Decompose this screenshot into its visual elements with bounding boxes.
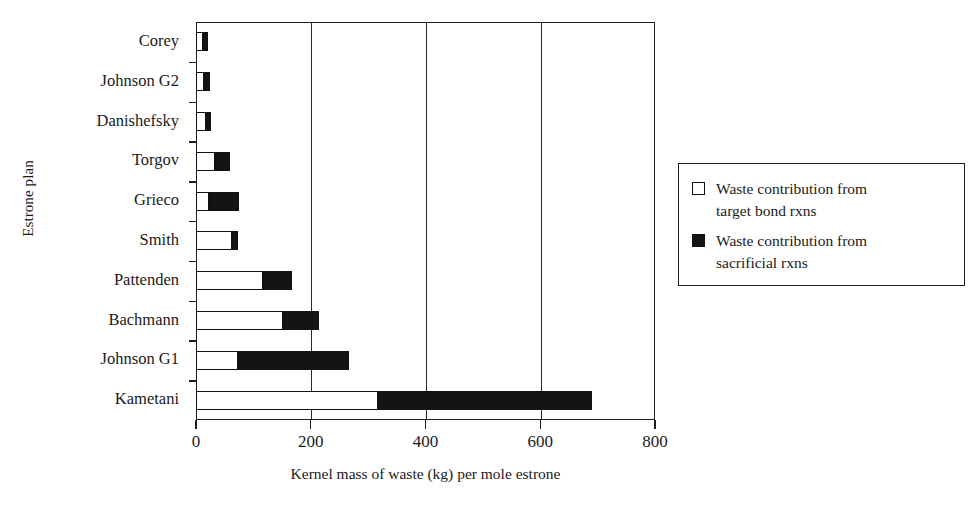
- legend-label: Waste contribution from target bond rxns: [716, 178, 867, 222]
- y-axis-label-smith: Smith: [140, 232, 179, 249]
- y-axis-tick: [189, 340, 196, 341]
- x-axis-tick-0: [195, 420, 196, 429]
- x-axis-ticks: [196, 420, 655, 430]
- y-axis-label-johnson-g1: Johnson G1: [101, 351, 179, 368]
- x-axis-tick-label-200: 200: [298, 432, 324, 452]
- y-axis-tick: [189, 380, 196, 381]
- bar-torgov: [196, 152, 230, 171]
- y-axis-tick: [189, 221, 196, 222]
- bar-pattenden: [196, 271, 292, 290]
- bar-johnson-g1: [196, 351, 349, 370]
- y-axis-tick: [189, 62, 196, 63]
- bar-corey: [196, 32, 205, 51]
- bar-chart-figure: Estrone plan CoreyJohnson G2DanishefskyT…: [0, 0, 971, 508]
- y-axis-tick: [189, 301, 196, 302]
- bar-segment-target-bond: [196, 351, 238, 370]
- bar-bachmann: [196, 311, 319, 330]
- bar-segment-sacrificial: [238, 351, 349, 370]
- bar-segment-target-bond: [196, 32, 203, 51]
- y-axis-label-kametani: Kametani: [115, 391, 179, 408]
- legend-swatch-white-icon: [692, 182, 705, 195]
- legend-item-target-bond-rxns: Waste contribution from target bond rxns: [692, 178, 867, 222]
- bar-segment-target-bond: [196, 192, 209, 211]
- legend-swatch-black-icon: [692, 234, 705, 247]
- bar-segment-sacrificial: [215, 152, 230, 171]
- y-axis-category-labels: CoreyJohnson G2DanishefskyTorgovGriecoSm…: [0, 22, 188, 420]
- y-axis-label-johnson-g2: Johnson G2: [101, 73, 179, 90]
- x-axis-tick-label-0: 0: [192, 432, 201, 452]
- y-axis-label-bachmann: Bachmann: [108, 312, 179, 329]
- x-axis-title: Kernel mass of waste (kg) per mole estro…: [196, 465, 655, 483]
- legend: Waste contribution from target bond rxns…: [678, 163, 965, 286]
- y-axis-label-corey: Corey: [139, 33, 179, 50]
- bar-segment-target-bond: [196, 311, 283, 330]
- x-axis-tick-800: [654, 420, 655, 429]
- bar-segment-sacrificial: [263, 271, 292, 290]
- legend-item-sacrificial-rxns: Waste contribution from sacrificial rxns: [692, 230, 867, 274]
- bar-danishefsky: [196, 112, 207, 131]
- bar-segment-sacrificial: [203, 32, 208, 51]
- y-axis-label-danishefsky: Danishefsky: [97, 113, 179, 130]
- y-axis-tick: [189, 261, 196, 262]
- legend-label: Waste contribution from sacrificial rxns: [716, 230, 867, 274]
- x-axis-tick-label-800: 800: [642, 432, 668, 452]
- bar-segment-sacrificial: [204, 72, 210, 91]
- y-axis-tick: [189, 141, 196, 142]
- bar-kametani: [196, 391, 592, 410]
- bar-segment-target-bond: [196, 391, 378, 410]
- bar-johnson-g2: [196, 72, 210, 91]
- x-axis-tick-label-600: 600: [528, 432, 554, 452]
- bar-segment-sacrificial: [232, 231, 238, 250]
- bar-segment-target-bond: [196, 112, 206, 131]
- bar-segment-sacrificial: [209, 192, 239, 211]
- bar-smith: [196, 231, 238, 250]
- bar-segment-sacrificial: [378, 391, 592, 410]
- x-axis-tick-600: [540, 420, 541, 429]
- bar-segment-target-bond: [196, 271, 263, 290]
- y-axis-label-pattenden: Pattenden: [114, 272, 179, 289]
- x-axis-tick-400: [425, 420, 426, 429]
- y-axis-tick: [189, 181, 196, 182]
- y-axis-label-grieco: Grieco: [134, 192, 179, 209]
- bar-series-group: [196, 22, 655, 420]
- y-axis-tick: [189, 102, 196, 103]
- bar-grieco: [196, 192, 239, 211]
- bar-segment-sacrificial: [283, 311, 319, 330]
- bar-segment-target-bond: [196, 231, 232, 250]
- x-axis-tick-200: [310, 420, 311, 429]
- bar-segment-target-bond: [196, 152, 215, 171]
- x-axis-tick-labels: 0200400600800: [196, 432, 655, 458]
- bar-segment-sacrificial: [206, 112, 211, 131]
- x-axis-tick-label-400: 400: [413, 432, 439, 452]
- bar-segment-target-bond: [196, 72, 204, 91]
- y-axis-label-torgov: Torgov: [132, 152, 179, 169]
